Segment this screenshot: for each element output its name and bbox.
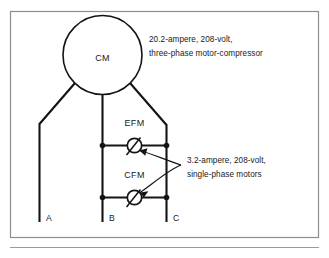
cfm-node-dot-c	[164, 195, 170, 201]
efm-node-dot-b	[100, 143, 106, 149]
cfm-node-dot-b	[100, 195, 106, 201]
conductor-phase-a	[40, 83, 76, 222]
fan-motor-note-line-2: single-phase motors	[187, 170, 262, 179]
efm-node-dot-c	[164, 143, 170, 149]
evaporator-fan-motor-label: EFM	[125, 118, 145, 128]
terminal-label-a: A	[46, 213, 52, 223]
leader-line-to-cfm	[140, 165, 181, 193]
wiring-diagram: CM EFM CFM A B C 20.2-ampere, 208-volt, …	[0, 0, 329, 258]
compressor-note-line-1: 20.2-ampere, 208-volt,	[149, 35, 232, 44]
compressor-motor-label: CM	[95, 53, 110, 63]
figure-frame	[11, 12, 319, 238]
figure-container: CM EFM CFM A B C 20.2-ampere, 208-volt, …	[0, 0, 329, 258]
terminal-label-c: C	[173, 213, 179, 223]
compressor-note-line-2: three-phase motor-compressor	[149, 49, 263, 58]
condenser-fan-motor-label: CFM	[124, 170, 144, 180]
terminal-label-b: B	[109, 213, 115, 223]
fan-motor-note-line-1: 3.2-ampere, 208-volt,	[187, 156, 266, 165]
